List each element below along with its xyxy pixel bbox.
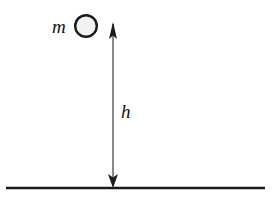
physics-diagram-figure: m h xyxy=(0,0,272,206)
diagram-canvas: m h xyxy=(0,0,272,206)
mass-label: m xyxy=(52,16,66,37)
height-label: h xyxy=(121,101,131,122)
mass-circle xyxy=(75,15,97,37)
